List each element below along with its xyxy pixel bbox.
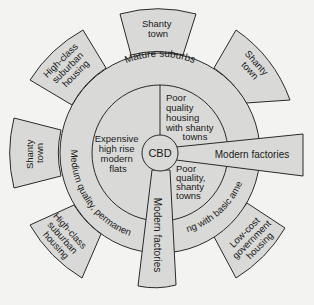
modern-factories-east-label: Modern factories <box>215 149 289 160</box>
modern-factories-south-label: Modern factories <box>152 198 163 272</box>
cbd-label: CBD <box>148 147 171 159</box>
urban-model-diagram: CBD Poor quality housing with shanty tow… <box>0 0 314 305</box>
